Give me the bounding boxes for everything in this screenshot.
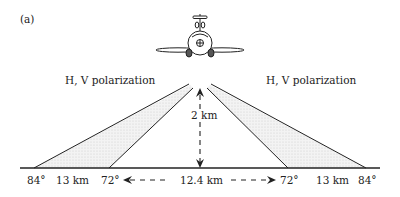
right-swath-label: 13 km bbox=[316, 175, 349, 186]
right-beam-label: H, V polarization bbox=[266, 75, 356, 86]
aircraft-icon bbox=[156, 14, 244, 57]
right-beam bbox=[207, 84, 366, 168]
altitude-arrow bbox=[196, 88, 204, 168]
radar-geometry-diagram bbox=[0, 0, 400, 197]
right-inner-angle: 72° bbox=[280, 175, 299, 186]
altitude-label: 2 km bbox=[190, 110, 218, 121]
left-beam-label: H, V polarization bbox=[65, 75, 155, 86]
panel-label: (a) bbox=[20, 14, 34, 25]
center-gap-label: 12.4 km bbox=[180, 175, 223, 186]
right-outer-angle: 84° bbox=[358, 175, 377, 186]
left-beam bbox=[34, 84, 193, 168]
left-inner-angle: 72° bbox=[101, 175, 120, 186]
left-swath-label: 13 km bbox=[56, 175, 89, 186]
left-outer-angle: 84° bbox=[27, 175, 46, 186]
